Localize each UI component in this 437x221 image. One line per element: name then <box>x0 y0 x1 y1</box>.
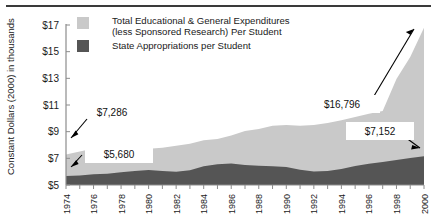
legend-swatch-state <box>77 40 89 52</box>
arrowhead-total-1974 <box>71 131 78 138</box>
y-tick-label: $5 <box>48 180 60 191</box>
legend-swatch-total <box>77 17 89 29</box>
x-tick-label: 1998 <box>392 194 402 214</box>
callout-label-total-1974: $7,286 <box>97 107 128 118</box>
x-tick-label: 1978 <box>117 194 127 214</box>
x-tick-label: 1976 <box>89 194 99 214</box>
chart-legend: Total Educational & General Expenditures… <box>77 15 290 52</box>
x-tick-label: 1986 <box>227 194 237 214</box>
x-tick-label: 1996 <box>364 194 374 214</box>
y-axis-title: Constant Dollars (2000) in thousands <box>5 18 16 175</box>
legend-label-state: State Appropriations per Student <box>112 40 251 51</box>
y-tick-label: $7 <box>48 153 60 164</box>
y-tick-label: $13 <box>42 73 59 84</box>
callout-label-total-2000: $16,796 <box>324 99 361 110</box>
y-tick-label: $11 <box>43 100 59 111</box>
chart-figure: Constant Dollars (2000) in thousands $5$… <box>0 0 437 221</box>
x-axis-tick-labels: 1974197619781980198219841986198819901992… <box>62 194 430 214</box>
x-tick-label: 1982 <box>172 194 182 214</box>
x-tick-label: 1990 <box>282 194 292 214</box>
area-chart: Constant Dollars (2000) in thousands $5$… <box>0 0 437 221</box>
y-tick-label: $17 <box>42 20 59 31</box>
y-axis-tick-labels: $5$7$9$11$13$15$17 <box>42 20 59 191</box>
legend-label-total-line1: Total Educational & General Expenditures <box>112 15 290 26</box>
x-tick-label: 1994 <box>337 194 347 214</box>
callout-label-state-2000: $7,152 <box>365 126 396 137</box>
x-tick-label: 1984 <box>199 194 209 214</box>
x-axis-ticks <box>66 185 424 189</box>
legend-label-total-line2: (less Sponsored Research) Per Student <box>112 26 282 37</box>
y-tick-label: $9 <box>48 126 60 137</box>
y-tick-label: $15 <box>42 46 59 57</box>
x-tick-label: 2000 <box>420 194 430 214</box>
x-tick-label: 1988 <box>254 194 264 214</box>
x-tick-label: 1974 <box>62 194 72 214</box>
callout-label-state-1974: $5,680 <box>104 149 135 160</box>
x-tick-label: 1980 <box>144 194 154 214</box>
x-tick-label: 1992 <box>309 194 319 214</box>
